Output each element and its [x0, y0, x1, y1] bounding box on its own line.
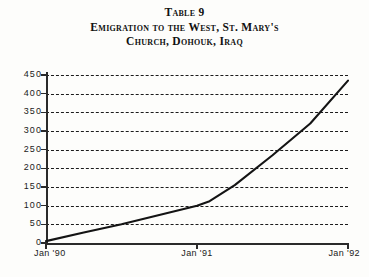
x-axis-tick-label: Jan '92 [328, 248, 360, 258]
y-axis-tick-label: 200 [8, 162, 42, 172]
y-axis-labels: 050100150200250300350400450 [0, 0, 42, 277]
y-axis-tick-label: 450 [8, 69, 42, 79]
gridline [46, 224, 348, 225]
y-axis-tick-label: 0 [8, 237, 42, 247]
x-axis-tick-label: Jan '90 [34, 248, 66, 258]
gridline [46, 94, 348, 95]
table-number-title: Table 9 [0, 5, 369, 20]
y-axis-tick-label: 100 [8, 200, 42, 210]
gridline [46, 206, 348, 207]
y-axis-line [46, 72, 48, 245]
gridline [46, 75, 348, 76]
y-axis-tick-label: 150 [8, 181, 42, 191]
gridline [46, 112, 348, 113]
gridline [46, 150, 348, 151]
gridline [46, 131, 348, 132]
chart-title-block: Table 9 Emigration to the West, St. Mary… [0, 5, 369, 49]
chart-title-line-1: Emigration to the West, St. Mary's [0, 20, 369, 35]
y-axis-tick-label: 50 [8, 218, 42, 228]
chart-page: Table 9 Emigration to the West, St. Mary… [0, 0, 369, 277]
chart-title-line-2: Church, Dohouk, Iraq [0, 34, 369, 49]
y-axis-tick-label: 350 [8, 106, 42, 116]
y-axis-tick-label: 400 [8, 88, 42, 98]
x-axis-tick-label: Jan '91 [181, 248, 213, 258]
gridline [46, 168, 348, 169]
emigration-line [46, 81, 348, 242]
gridline [46, 187, 348, 188]
y-axis-tick-label: 250 [8, 144, 42, 154]
y-axis-tick-label: 300 [8, 125, 42, 135]
